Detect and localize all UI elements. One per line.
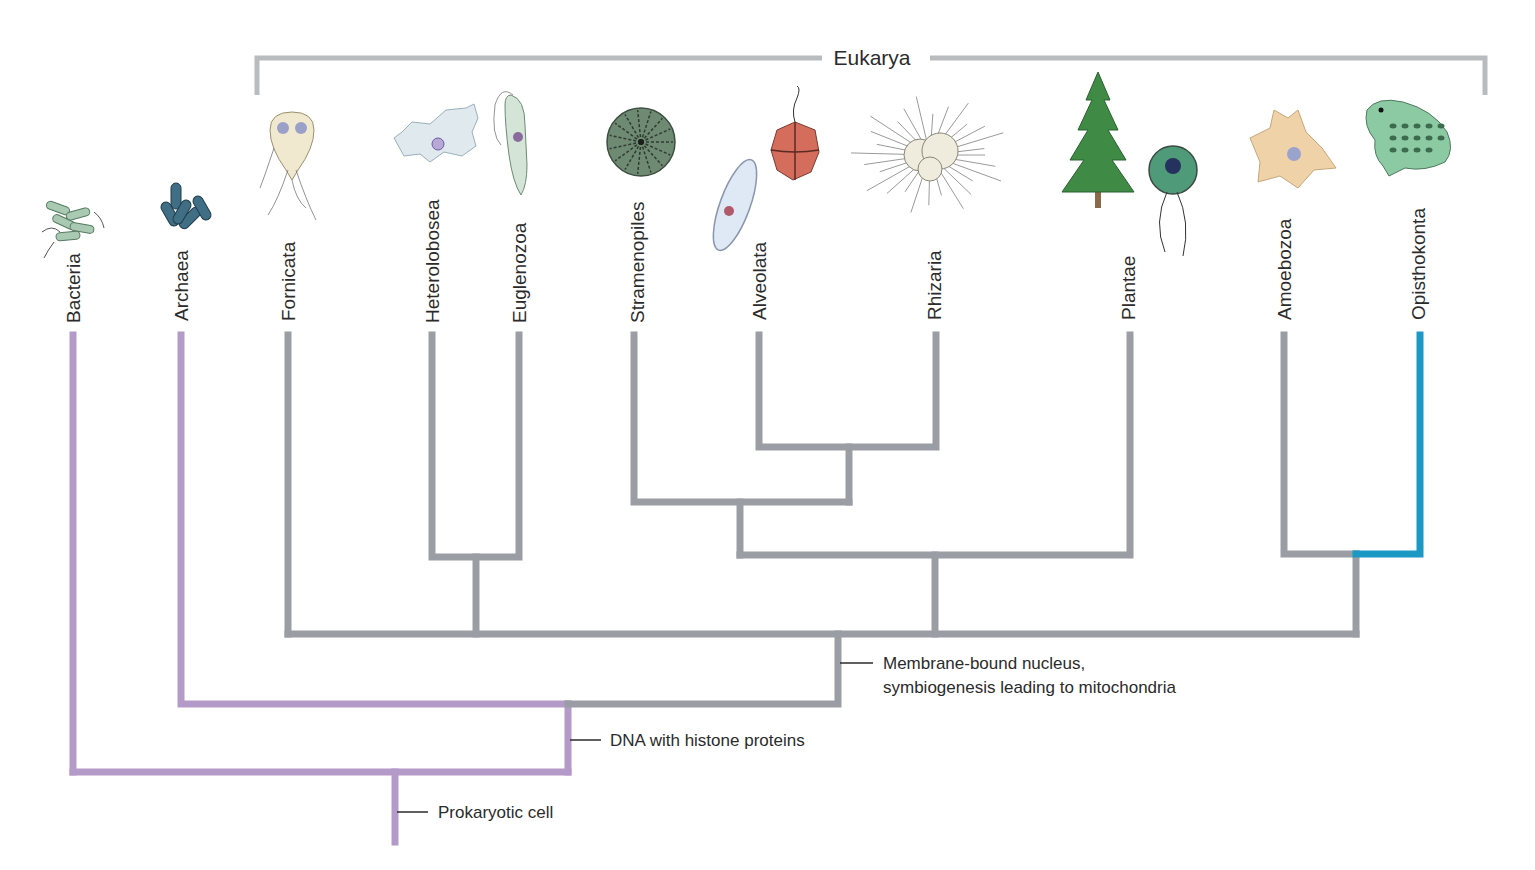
- trait-histone-dna: DNA with histone proteins: [570, 731, 805, 750]
- tree-branches: [73, 335, 1420, 842]
- branch-amoebozoa-bar: [1284, 335, 1356, 554]
- taxon-label-rhizaria: Rhizaria: [924, 250, 945, 320]
- branch-archaea-stem: [181, 335, 568, 704]
- trait-text: symbiogenesis leading to mitochondria: [883, 678, 1176, 697]
- euglena-icon: [494, 92, 527, 195]
- diatom-icon: [607, 108, 675, 176]
- trait-membrane-nucleus: Membrane-bound nucleus,symbiogenesis lea…: [840, 654, 1176, 697]
- rod-archaea-icon: [159, 183, 213, 231]
- taxon-label-amoebozoa: Amoebozoa: [1274, 218, 1295, 320]
- taxon-label-bacteria: Bacteria: [63, 253, 84, 323]
- phylogenetic-tree: Eukarya BacteriaArchaeaFornicataHeterolo…: [0, 0, 1535, 870]
- radiolarian-icon: [851, 97, 1003, 213]
- frog-icon: [1366, 100, 1451, 176]
- taxon-label-heterolobosea: Heterolobosea: [422, 199, 443, 323]
- rod-bacteria-icon: [42, 200, 104, 258]
- pine-tree-icon: [1062, 72, 1134, 208]
- taxon-label-fornicata: Fornicata: [278, 241, 299, 321]
- branch-hetero-eugl-bar: [432, 335, 519, 557]
- branch-sar-bar: [634, 335, 849, 502]
- paramecium-icon: [704, 155, 765, 255]
- taxon-label-alveolata: Alveolata: [749, 241, 770, 320]
- amoeba-icon: [1250, 110, 1336, 188]
- naegleria-amoeba-icon: [394, 104, 478, 162]
- bracket-right-arm: [930, 58, 1485, 95]
- eukarya-label: Eukarya: [833, 46, 910, 69]
- chlamydomonas-icon: [1149, 146, 1197, 256]
- trait-text: DNA with histone proteins: [610, 731, 805, 750]
- branch-alv-rhiz-bar: [759, 335, 936, 447]
- organism-illustrations: [42, 72, 1451, 258]
- trait-text: Membrane-bound nucleus,: [883, 654, 1085, 673]
- taxon-label-opisthokonta: Opisthokonta: [1408, 208, 1429, 320]
- trait-annotations: Prokaryotic cellDNA with histone protein…: [397, 654, 1176, 822]
- taxon-label-plantae: Plantae: [1118, 256, 1139, 320]
- taxon-label-euglenozoa: Euglenozoa: [509, 222, 530, 323]
- eukarya-bracket: Eukarya: [257, 46, 1485, 95]
- bracket-left-arm: [257, 58, 822, 95]
- trait-text: Prokaryotic cell: [438, 803, 553, 822]
- branch-opisthokonta-bar: [1356, 335, 1420, 554]
- dinoflagellate-icon: [771, 86, 819, 180]
- taxon-label-stramenopiles: Stramenopiles: [627, 202, 648, 323]
- trait-prokaryotic-cell: Prokaryotic cell: [397, 803, 553, 822]
- branch-euk-link: [568, 634, 838, 704]
- taxon-label-archaea: Archaea: [171, 250, 192, 321]
- giardia-icon: [260, 112, 316, 220]
